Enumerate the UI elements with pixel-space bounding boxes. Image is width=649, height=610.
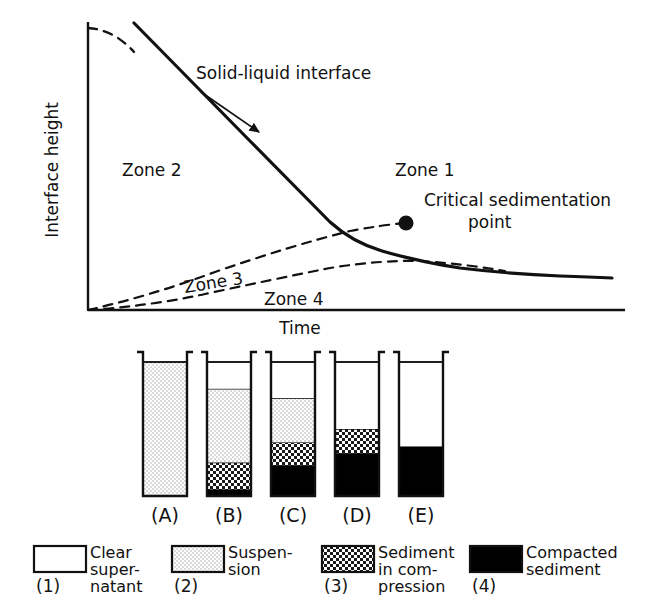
- legend-number-4: (4): [472, 576, 496, 596]
- critical-sedimentation-point-marker: [399, 216, 414, 231]
- zone-4-label: Zone 4: [264, 289, 324, 309]
- legend-label-1-line-3: natant: [90, 577, 142, 596]
- zone3-boundary-curve: [88, 223, 406, 310]
- cylinder-d: [329, 352, 385, 496]
- legend: (1)Clearsuper-natant(2)Suspen-sion(3)Sed…: [34, 543, 618, 596]
- cylinder-e: [393, 352, 449, 496]
- cylinder-b-caption: (B): [215, 504, 243, 526]
- x-axis-label: Time: [278, 318, 321, 338]
- legend-number-1: (1): [36, 576, 60, 596]
- cylinder-d-layer-clear: [335, 362, 379, 429]
- cylinder-b-layer-clear: [207, 362, 251, 389]
- cylinder-c-layer-clear: [271, 362, 315, 398]
- cylinder-row: (A)(B)(C)(D)(E): [137, 352, 449, 526]
- legend-swatch-suspension: [172, 546, 224, 572]
- legend-item-2: (2)Suspen-sion: [172, 543, 293, 596]
- zone-1-label: Zone 1: [395, 160, 455, 180]
- cylinder-e-layer-compacted: [399, 446, 443, 496]
- cylinder-d-caption: (D): [342, 504, 371, 526]
- legend-number-3: (3): [324, 576, 348, 596]
- cylinder-c-layer-compacted: [271, 465, 315, 496]
- cylinder-c-layer-suspension: [271, 398, 315, 442]
- legend-swatch-compression: [322, 546, 374, 572]
- y-axis-label: Interface height: [42, 102, 62, 238]
- legend-swatch-clear: [34, 546, 86, 572]
- legend-number-2: (2): [174, 576, 198, 596]
- cylinder-a-layer-suspension: [143, 362, 187, 496]
- solid-liquid-interface-label: Solid-liquid interface: [196, 63, 371, 83]
- legend-label-2-line-2: sion: [228, 560, 261, 579]
- cylinder-b-layer-suspension: [207, 389, 251, 463]
- cylinder-d-layer-compacted: [335, 453, 379, 496]
- cylinder-e-caption: (E): [408, 504, 435, 526]
- legend-item-4: (4)Compactedsediment: [470, 543, 618, 596]
- cylinder-b: [201, 352, 257, 496]
- legend-item-1: (1)Clearsuper-natant: [34, 543, 142, 596]
- sedimentation-figure: Interface height Time Solid-liquid inter…: [0, 0, 649, 610]
- cylinder-c-caption: (C): [279, 504, 307, 526]
- zone-2-label: Zone 2: [122, 160, 182, 180]
- interface-curve-dashed-head: [88, 28, 134, 52]
- cylinder-e-layer-clear: [399, 362, 443, 446]
- solid-liquid-interface-arrow: [201, 92, 259, 132]
- cylinder-c-layer-compression: [271, 442, 315, 465]
- critical-sedimentation-point-label-line1: Critical sedimentation: [424, 190, 611, 210]
- legend-swatch-compacted: [470, 546, 522, 572]
- legend-label-3-line-3: pression: [378, 577, 445, 596]
- cylinder-b-layer-compression: [207, 463, 251, 490]
- interface-curve-solid: [134, 23, 612, 278]
- cylinder-d-layer-compression: [335, 429, 379, 453]
- legend-item-3: (3)Sedimentin com-pression: [322, 543, 454, 596]
- cylinder-c: [265, 352, 321, 496]
- critical-sedimentation-point-label-line2: point: [468, 212, 512, 232]
- zone-3-label: Zone 3: [182, 268, 244, 297]
- legend-label-4-line-2: sediment: [526, 560, 601, 579]
- cylinder-a: [137, 352, 193, 496]
- cylinder-a-caption: (A): [151, 504, 179, 526]
